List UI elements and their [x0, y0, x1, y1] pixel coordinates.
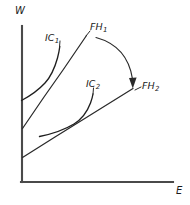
budget-line-fh1	[23, 36, 87, 129]
fh1-label-base: FH	[90, 21, 103, 32]
shift-arrow-group	[96, 38, 137, 89]
fh2-label-base: FH	[142, 80, 155, 91]
axes-group	[21, 26, 173, 182]
indifference-curve-ic1-group	[22, 47, 60, 101]
wage-axis-label-base: W	[15, 5, 25, 16]
leader-line-fh2	[135, 87, 141, 90]
ic1-label-base: IC	[45, 32, 54, 43]
leader-line-ic1	[60, 41, 61, 47]
fh1-label: FH1	[90, 22, 107, 32]
budget-line-fh1-group	[23, 36, 87, 129]
shift-arrow-path	[96, 38, 133, 80]
leader-lines-group	[60, 31, 142, 94]
indifference-curve-ic1	[22, 47, 60, 101]
effort-axis-label-base: E	[176, 185, 182, 196]
ic1-label: IC1	[45, 33, 59, 43]
budget-line-fh2-group	[23, 89, 134, 158]
ic2-label: IC2	[86, 79, 100, 89]
wage-axis-label: W	[15, 6, 25, 16]
ic1-label-sub: 1	[55, 37, 59, 45]
fh2-label-sub: 2	[155, 85, 159, 93]
fh1-label-sub: 1	[103, 26, 107, 34]
effort-axis-label: E	[176, 186, 182, 196]
fh2-label: FH2	[142, 81, 159, 91]
budget-line-fh2	[23, 89, 134, 158]
shift-arrow-head	[129, 78, 137, 89]
ic2-label-sub: 2	[96, 83, 100, 91]
figure-canvas: W E IC1 IC2 FH1 FH2	[0, 0, 190, 205]
ic2-label-base: IC	[86, 78, 95, 89]
